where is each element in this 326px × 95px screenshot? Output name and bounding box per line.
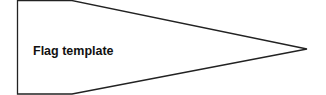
flag-label: Flag template xyxy=(33,44,114,58)
flag-diagram: Flag template xyxy=(0,0,326,95)
